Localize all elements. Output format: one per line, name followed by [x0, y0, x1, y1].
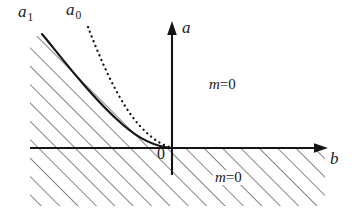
figure-canvas — [0, 0, 352, 221]
origin-label: 0 — [157, 146, 165, 162]
region-label-m-upper: m=0 — [209, 77, 236, 92]
parameter-plane-figure: a1 a0 a b 0 m=0 m=0 — [0, 0, 352, 221]
axis-a-label: a — [182, 19, 191, 36]
curve-label-a0-subscript: 0 — [75, 9, 82, 22]
curve-label-a0: a0 — [66, 1, 81, 22]
curve-label-a1: a1 — [18, 3, 33, 24]
curve-label-a1-subscript: 1 — [27, 11, 34, 24]
axis-b-label: b — [330, 150, 339, 167]
region-label-m-lower: m=0 — [213, 170, 244, 185]
